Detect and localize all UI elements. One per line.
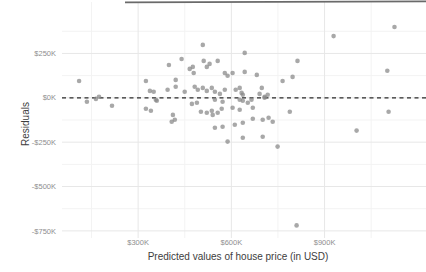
- scatter-point: [195, 101, 200, 106]
- scatter-point: [205, 89, 210, 94]
- scatter-point: [237, 86, 242, 91]
- scatter-point: [149, 109, 154, 114]
- scatter-point: [386, 110, 391, 115]
- y-tick-label: -$500K: [32, 182, 56, 191]
- x-tick-label: $900K: [314, 238, 336, 247]
- scatter-point: [167, 63, 172, 68]
- scatter-point: [201, 86, 206, 91]
- scatter-point: [154, 98, 159, 103]
- minor-gridlines: [62, 2, 426, 238]
- scatter-point: [260, 86, 265, 91]
- scatter-point: [233, 88, 238, 93]
- scatter-point: [230, 71, 235, 76]
- scatter-point: [220, 124, 225, 129]
- scatter-point: [254, 73, 259, 78]
- scatter-point: [257, 92, 262, 97]
- scatter-point: [237, 107, 242, 112]
- scatter-point: [213, 98, 218, 103]
- scatter-point: [191, 65, 196, 70]
- x-axis-title: Predicted values of house price (in USD): [148, 251, 329, 262]
- scatter-point: [233, 123, 238, 128]
- scatter-point: [266, 115, 271, 120]
- scatter-point: [207, 62, 212, 67]
- scatter-point: [171, 113, 176, 118]
- scatter-point: [144, 107, 149, 112]
- scatter-point: [241, 135, 246, 140]
- scatter-point: [241, 120, 246, 125]
- plot-canvas: $300K$600K$900K$250K$0K-$250K-$500K-$750…: [0, 0, 426, 272]
- scatter-point: [110, 104, 115, 109]
- top-border-line: [125, 1, 426, 2]
- scatter-point: [165, 88, 170, 93]
- scatter-point: [199, 110, 204, 115]
- top-border-line: [125, 1, 426, 2]
- scatter-point: [173, 78, 178, 83]
- scatter-point: [280, 79, 285, 84]
- scatter-point: [260, 134, 265, 139]
- scatter-point: [144, 79, 149, 84]
- scatter-point: [242, 51, 247, 56]
- scatter-point: [275, 144, 280, 149]
- axis-tick-labels: $300K$600K$900K$250K$0K-$250K-$500K-$750…: [32, 49, 336, 247]
- scatter-point: [225, 139, 230, 144]
- y-tick-label: $250K: [34, 49, 56, 58]
- scatter-point: [190, 102, 195, 107]
- scatter-points: [77, 25, 397, 228]
- scatter-point: [210, 113, 215, 118]
- scatter-point: [294, 223, 299, 228]
- scatter-point: [201, 59, 206, 64]
- scatter-point: [260, 118, 265, 123]
- scatter-point: [331, 34, 336, 39]
- scatter-point: [241, 93, 246, 98]
- scatter-point: [213, 126, 218, 131]
- scatter-point: [251, 117, 256, 122]
- scatter-point: [213, 90, 218, 95]
- scatter-point: [218, 92, 223, 97]
- scatter-point: [251, 106, 256, 111]
- scatter-point: [246, 101, 251, 106]
- scatter-point: [392, 25, 397, 30]
- scatter-point: [225, 74, 230, 79]
- scatter-point: [169, 120, 174, 125]
- scatter-point: [219, 107, 224, 112]
- scatter-point: [85, 99, 90, 104]
- scatter-point: [249, 98, 254, 103]
- scatter-point: [179, 57, 184, 62]
- scatter-point: [288, 110, 293, 115]
- x-tick-label: $300K: [127, 238, 149, 247]
- scatter-point: [223, 88, 228, 93]
- scatter-point: [220, 99, 225, 104]
- scatter-point: [196, 88, 201, 93]
- scatter-point: [201, 43, 206, 48]
- scatter-point: [242, 70, 247, 75]
- y-tick-label: -$750K: [32, 227, 56, 236]
- scatter-point: [151, 90, 156, 95]
- scatter-point: [97, 95, 102, 100]
- y-tick-label: -$250K: [32, 138, 56, 147]
- scatter-point: [262, 96, 267, 101]
- scatter-point: [77, 79, 82, 84]
- y-tick-label: $0K: [43, 93, 56, 102]
- scatter-point: [354, 128, 359, 133]
- scatter-point: [290, 75, 295, 80]
- scatter-point: [191, 71, 196, 76]
- scatter-point: [210, 86, 215, 91]
- x-tick-label: $600K: [221, 238, 243, 247]
- y-axis-title: Residuals: [20, 102, 31, 146]
- scatter-point: [205, 110, 210, 115]
- scatter-point: [295, 59, 300, 64]
- scatter-point: [215, 59, 220, 64]
- scatter-point: [237, 98, 242, 103]
- residuals-scatter-figure: $300K$600K$900K$250K$0K-$250K-$500K-$750…: [0, 0, 426, 272]
- scatter-point: [230, 106, 235, 111]
- scatter-point: [215, 110, 220, 115]
- scatter-point: [385, 69, 390, 74]
- scatter-point: [173, 85, 178, 90]
- scatter-point: [270, 120, 275, 125]
- scatter-point: [148, 89, 153, 94]
- scatter-point: [210, 109, 215, 114]
- scatter-point: [182, 90, 187, 95]
